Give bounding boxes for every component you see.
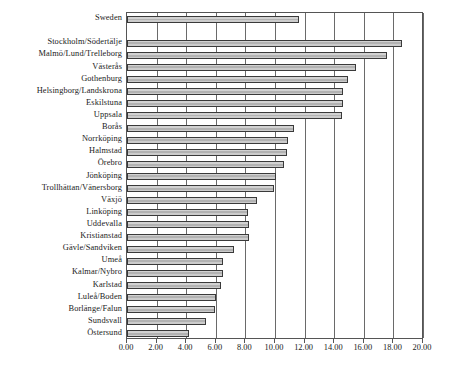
- bar: [127, 16, 299, 23]
- gridline: [305, 13, 306, 338]
- bar: [127, 318, 206, 325]
- category-label: Karlstad: [93, 280, 122, 289]
- bar: [127, 294, 216, 301]
- category-label: Jönköping: [86, 171, 122, 180]
- gridline: [423, 13, 424, 338]
- bar: [127, 282, 221, 289]
- category-label: Trollhättan/Vänersborg: [42, 183, 122, 192]
- bar: [127, 221, 249, 228]
- x-tick-label: 10.00: [265, 343, 284, 353]
- category-label: Helsingborg/Landskrona: [37, 86, 122, 95]
- category-label: Gothenburg: [81, 74, 122, 83]
- x-tick-label: 2.00: [148, 343, 163, 353]
- x-tick-label: 12.00: [294, 343, 313, 353]
- category-label: Norrköping: [82, 134, 122, 143]
- bar: [127, 76, 348, 83]
- bar: [127, 209, 248, 216]
- category-label: Kalmar/Nybro: [72, 267, 122, 276]
- category-label: Stockholm/Södertälje: [47, 37, 122, 46]
- bar: [127, 161, 284, 168]
- category-label: Halmstad: [89, 146, 122, 155]
- bar: [127, 173, 276, 180]
- category-label: Borås: [102, 122, 122, 131]
- category-label: Malmö/Lund/Trelleborg: [38, 49, 122, 58]
- bar: [127, 306, 215, 313]
- x-tick-label: 14.00: [324, 343, 343, 353]
- gridline: [334, 13, 335, 338]
- bar: [127, 246, 234, 253]
- bar: [127, 40, 402, 47]
- x-tick-label: 4.00: [178, 343, 193, 353]
- category-label-column: SwedenStockholm/SödertäljeMalmö/Lund/Tre…: [0, 0, 126, 340]
- category-label: Sundsvall: [88, 316, 122, 325]
- bar: [127, 234, 249, 241]
- x-tick-label: 0.00: [119, 343, 134, 353]
- bar: [127, 125, 294, 132]
- bar: [127, 330, 189, 337]
- x-tick-label: 20.00: [413, 343, 432, 353]
- gridline: [393, 13, 394, 338]
- bar: [127, 197, 257, 204]
- bar: [127, 64, 356, 71]
- gridline: [364, 13, 365, 338]
- x-axis-tick-labels: 0.002.004.006.008.0010.0012.0014.0016.00…: [126, 343, 423, 359]
- bar: [127, 52, 387, 59]
- bar: [127, 185, 274, 192]
- bar: [127, 149, 287, 156]
- x-tick-label: 6.00: [207, 343, 222, 353]
- category-label: Borlänge/Falun: [68, 304, 122, 313]
- x-tick-label: 18.00: [383, 343, 402, 353]
- category-label: Sweden: [95, 13, 122, 22]
- plot-area: [126, 12, 423, 339]
- category-label: Uddevalla: [87, 219, 122, 228]
- bar-chart: SwedenStockholm/SödertäljeMalmö/Lund/Tre…: [0, 0, 451, 375]
- category-label: Västerås: [92, 62, 122, 71]
- category-label: Luleå/Boden: [78, 292, 122, 301]
- bar: [127, 112, 342, 119]
- category-label: Gävle/Sandviken: [63, 243, 122, 252]
- bar: [127, 88, 343, 95]
- bar: [127, 137, 288, 144]
- x-tick-label: 16.00: [353, 343, 372, 353]
- category-label: Östersund: [87, 328, 122, 337]
- category-label: Uppsala: [94, 110, 122, 119]
- bar: [127, 270, 223, 277]
- category-label: Kristianstad: [80, 231, 122, 240]
- bar: [127, 258, 223, 265]
- category-label: Växjö: [101, 195, 122, 204]
- x-tick-label: 8.00: [237, 343, 252, 353]
- category-label: Umeå: [102, 255, 122, 264]
- bar: [127, 100, 343, 107]
- category-label: Örebro: [98, 158, 122, 167]
- category-label: Linköping: [86, 207, 122, 216]
- category-label: Eskilstuna: [86, 98, 122, 107]
